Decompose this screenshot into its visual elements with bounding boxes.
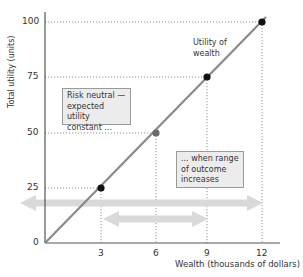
risk-neutral-callout: Risk neutral — expected utility constant… bbox=[62, 88, 131, 125]
narrow-range-arrow bbox=[103, 211, 208, 227]
x-tick-3: 3 bbox=[98, 248, 104, 258]
range-increase-callout: ... when range of outcome increases bbox=[176, 151, 244, 188]
x-tick-12: 12 bbox=[256, 248, 267, 258]
data-point-9 bbox=[203, 73, 210, 80]
y-tick-75: 75 bbox=[27, 71, 38, 81]
y-axis-label: Total utility (units) bbox=[7, 36, 16, 108]
utility-chart bbox=[0, 0, 303, 277]
data-point-6 bbox=[152, 129, 159, 136]
y-tick-100: 100 bbox=[22, 16, 39, 26]
y-tick-25: 25 bbox=[27, 182, 38, 192]
wide-range-arrow bbox=[20, 195, 263, 211]
origin-label: 0 bbox=[33, 237, 39, 247]
data-point-3 bbox=[97, 184, 104, 191]
data-point-12 bbox=[258, 18, 265, 25]
x-tick-6: 6 bbox=[153, 248, 159, 258]
x-tick-9: 9 bbox=[204, 248, 210, 258]
x-axis-label: Wealth (thousands of dollars) bbox=[175, 259, 300, 269]
y-tick-50: 50 bbox=[27, 127, 38, 137]
curve-label: Utility of wealth bbox=[193, 38, 227, 59]
